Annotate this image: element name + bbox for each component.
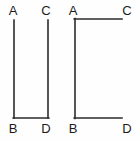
left-figure-label-c: C: [41, 3, 50, 18]
right-figure: A C B D: [69, 3, 132, 136]
figures-svg: A C B D A C B D: [0, 0, 140, 141]
right-figure-label-b: B: [69, 121, 78, 136]
right-figure-label-c: C: [122, 3, 131, 18]
left-figure-label-b: B: [9, 121, 18, 136]
left-figure-label-d: D: [41, 121, 50, 136]
left-figure: A C B D: [9, 3, 51, 136]
diagram-canvas: A C B D A C B D: [0, 0, 140, 141]
right-figure-label-a: A: [69, 3, 78, 18]
left-figure-label-a: A: [9, 3, 18, 18]
right-figure-label-d: D: [122, 121, 131, 136]
